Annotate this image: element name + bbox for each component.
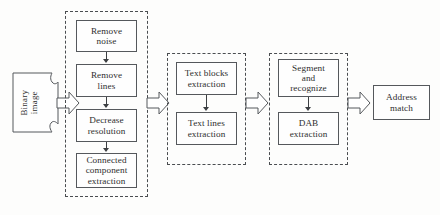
- arrowhead-decrease-resolution: [103, 104, 109, 108]
- arrowhead-remove-lines: [103, 59, 109, 63]
- remove-lines-box[interactable]: Remove lines: [76, 64, 137, 97]
- arrowhead-text-lines: [203, 107, 209, 111]
- decrease-resolution-box[interactable]: Decrease resolution: [76, 109, 137, 142]
- dab-extraction-box[interactable]: DAB extraction: [278, 112, 339, 145]
- address-match-box[interactable]: Address match: [373, 85, 430, 120]
- binary-image-label: Binary image: [20, 72, 39, 134]
- segment-and-recognize-box[interactable]: Segment and recognize: [278, 59, 339, 97]
- connected-component-extraction-box[interactable]: Connected component extraction: [76, 153, 137, 188]
- arrowhead-dab-extraction: [305, 107, 311, 111]
- arrowhead-connected-component: [103, 148, 109, 152]
- text-lines-extraction-box[interactable]: Text lines extraction: [176, 112, 237, 145]
- remove-noise-box[interactable]: Remove noise: [76, 20, 137, 52]
- block-arrow-recognition-to-address-match: [347, 90, 371, 116]
- block-arrow-text-extraction-to-recognition: [245, 90, 269, 116]
- flowchart-canvas: Binary image Remove noise Remove lines D…: [0, 0, 440, 215]
- text-blocks-extraction-box[interactable]: Text blocks extraction: [176, 62, 237, 95]
